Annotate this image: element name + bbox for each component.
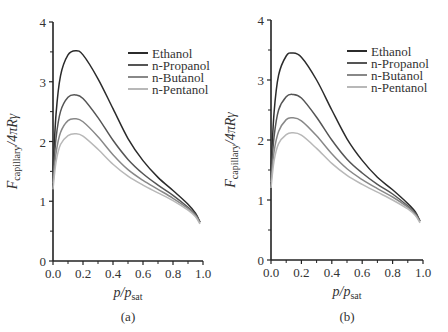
x-tick-label: 1.0 [195, 266, 211, 281]
x-tick-label: 0.6 [135, 266, 152, 281]
y-axis-label: Fcapillary/4πRγ [5, 113, 22, 190]
x-tick-label: 0.2 [75, 266, 91, 281]
x-tick-label: 0.2 [293, 265, 309, 280]
legend-label: n-Pentanol [371, 80, 428, 95]
y-tick-label: 4 [258, 13, 265, 28]
legend-label: n-Pentanol [152, 82, 209, 97]
y-tick-label: 2 [40, 135, 47, 150]
x-tick-label: 0.6 [354, 265, 371, 280]
x-tick-label: 0.0 [45, 266, 61, 281]
panel-b: 012340.00.20.40.60.81.0Ethanoln-Propanol… [223, 13, 431, 324]
x-tick-label: 0.4 [105, 266, 122, 281]
x-tick-label: 1.0 [415, 265, 431, 280]
y-tick-label: 3 [40, 75, 47, 90]
x-axis-label: p/psat [113, 285, 143, 302]
panel-label: (a) [121, 309, 135, 324]
y-axis-label: Fcapillary/4πRγ [223, 112, 240, 189]
y-tick-label: 2 [258, 133, 265, 148]
y-tick-label: 1 [40, 194, 47, 209]
x-tick-label: 0.8 [165, 266, 181, 281]
y-tick-label: 1 [258, 193, 265, 208]
x-axis-label: p/psat [332, 284, 362, 301]
x-tick-label: 0.8 [384, 265, 400, 280]
series-line-n-pentanol [271, 133, 420, 223]
figure: 012340.00.20.40.60.81.0Ethanoln-Propanol… [0, 0, 448, 332]
panel-label: (b) [339, 309, 354, 324]
x-tick-label: 0.4 [324, 265, 341, 280]
panel-a: 012340.00.20.40.60.81.0Ethanoln-Propanol… [5, 15, 211, 324]
y-tick-label: 4 [40, 15, 47, 30]
y-tick-label: 3 [258, 73, 265, 88]
x-tick-label: 0.0 [263, 265, 279, 280]
series-line-n-pentanol [53, 134, 200, 224]
